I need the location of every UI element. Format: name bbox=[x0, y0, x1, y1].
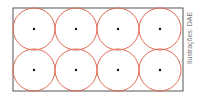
illustration-credit: Ilustrações: DAE bbox=[186, 4, 198, 64]
center-dot bbox=[33, 28, 35, 30]
center-dot bbox=[33, 69, 35, 71]
circle-row-bottom bbox=[13, 49, 181, 91]
circle-row-top bbox=[13, 8, 181, 50]
center-dot bbox=[159, 28, 161, 30]
center-dot bbox=[117, 69, 119, 71]
center-dot bbox=[75, 28, 77, 30]
center-dot bbox=[159, 69, 161, 71]
center-dot bbox=[75, 69, 77, 71]
circles-in-rectangle-diagram bbox=[0, 0, 205, 95]
center-dot bbox=[117, 28, 119, 30]
